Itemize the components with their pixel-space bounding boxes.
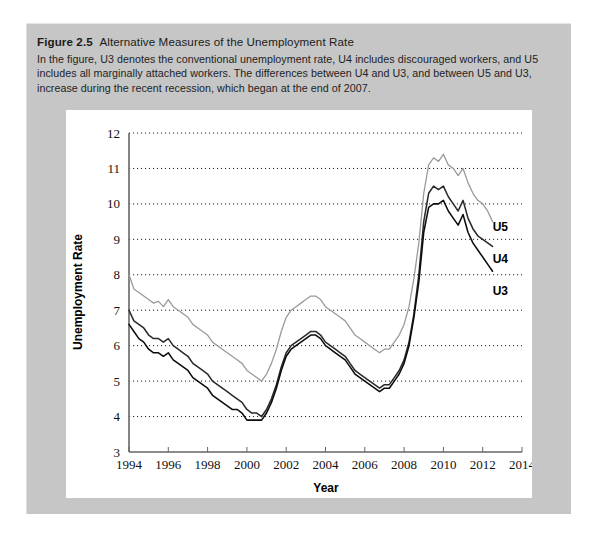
y-axis-title: Unemployment Rate (71, 234, 85, 350)
x-tick-label: 2006 (352, 457, 379, 472)
figure-number: Figure 2.5 (37, 35, 93, 48)
figure-title-text: Alternative Measures of the Unemployment… (99, 35, 354, 48)
y-axis-ticks: 3456789101112 (107, 126, 121, 460)
x-tick-label: 2008 (391, 457, 417, 472)
y-tick-label: 5 (114, 374, 121, 389)
x-axis-ticks: 1994199619982000200220042006200820102012… (116, 447, 532, 472)
figure-description: In the figure, U3 denotes the convention… (37, 52, 560, 95)
y-tick-label: 11 (107, 161, 120, 176)
data-series (129, 154, 493, 420)
series-line-u5 (129, 154, 493, 381)
x-tick-label: 2000 (234, 457, 260, 472)
figure-caption-block: Figure 2.5 Alternative Measures of the U… (37, 34, 560, 95)
x-tick-label: 2004 (313, 457, 340, 472)
plot-card: 3456789101112 19941996199820002002200420… (66, 110, 532, 498)
series-line-u4 (129, 186, 493, 416)
figure-title: Figure 2.5 Alternative Measures of the U… (37, 34, 560, 49)
x-tick-label: 2010 (430, 457, 456, 472)
y-tick-label: 8 (114, 267, 121, 282)
x-tick-label: 1996 (155, 457, 182, 472)
gridlines (129, 133, 522, 417)
series-label-u5: U5 (493, 220, 509, 234)
x-tick-label: 2002 (273, 457, 299, 472)
y-tick-label: 12 (107, 126, 120, 141)
unemployment-line-chart: 3456789101112 19941996199820002002200420… (66, 110, 532, 498)
x-tick-label: 1998 (195, 457, 221, 472)
series-label-u3: U3 (493, 284, 509, 298)
x-tick-label: 2012 (470, 457, 496, 472)
y-tick-label: 6 (114, 338, 121, 353)
y-tick-label: 10 (107, 196, 120, 211)
x-tick-label: 2014 (509, 457, 532, 472)
x-axis-title: Year (313, 481, 339, 495)
y-tick-label: 4 (114, 409, 121, 424)
y-tick-label: 7 (114, 303, 121, 318)
x-tick-label: 1994 (116, 457, 143, 472)
series-label-u4: U4 (493, 252, 509, 266)
figure-panel: Figure 2.5 Alternative Measures of the U… (26, 23, 571, 514)
series-annotations: U5U4U3 (493, 220, 509, 298)
y-tick-label: 9 (114, 232, 121, 247)
